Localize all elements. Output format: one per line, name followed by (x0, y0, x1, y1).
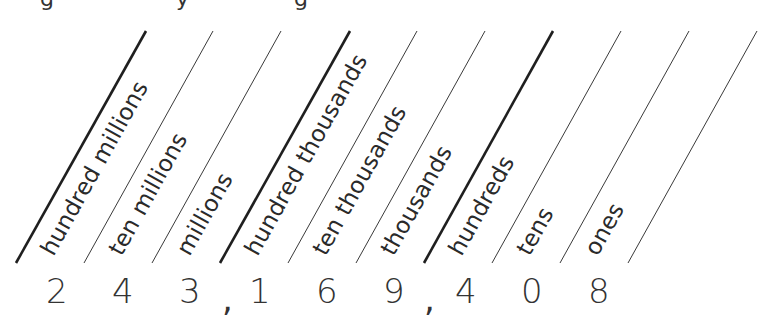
digit-thousands: 9 (383, 274, 405, 308)
comma-separator: , (222, 282, 233, 316)
digit-ones: 8 (588, 274, 610, 308)
digit-hundreds: 4 (455, 274, 477, 308)
digit-ten-millions: 4 (112, 274, 134, 308)
digit-hundred-millions: 2 (46, 274, 68, 308)
digit-tens: 0 (521, 274, 543, 308)
divider-line (628, 31, 757, 263)
digit-hundred-thousands: 1 (249, 274, 271, 308)
comma-separator: , (424, 282, 435, 316)
divider-line (560, 31, 689, 263)
digit-millions: 3 (179, 274, 201, 308)
digit-ten-thousands: 6 (316, 274, 338, 308)
